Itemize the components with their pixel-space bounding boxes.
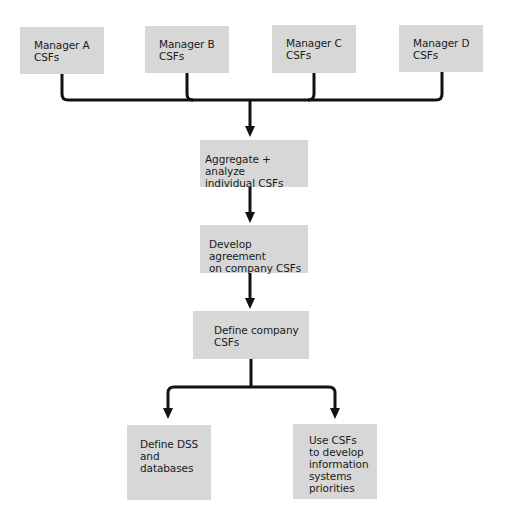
arrowhead-define-dss	[163, 408, 173, 419]
manager-a-subtitle: CSFs	[34, 51, 94, 63]
manager-b-subtitle: CSFs	[159, 50, 219, 62]
agreement-line-2: on company CSFs	[209, 262, 304, 274]
agreement-line-1: Develop agreement	[209, 238, 304, 262]
use-csfs-line-1: Use CSFs	[309, 434, 375, 446]
define-dss-line-1: Define DSS	[140, 438, 207, 450]
manager-d-subtitle: CSFs	[413, 49, 473, 61]
define-company-line-2: CSFs	[214, 336, 305, 348]
drop-manager-c	[308, 73, 314, 100]
branch-bus	[168, 387, 335, 410]
use-csfs-box: Use CSFs to develop information systems …	[293, 424, 377, 499]
define-company-box: Define company CSFs	[193, 311, 309, 359]
use-csfs-line-3: information	[309, 458, 375, 470]
manager-c-title: Manager C	[286, 37, 346, 49]
manager-a-title: Manager A	[34, 39, 94, 51]
bus-manager-a	[62, 72, 442, 100]
manager-d-box: Manager D CSFs	[399, 25, 483, 72]
manager-c-subtitle: CSFs	[286, 49, 346, 61]
aggregate-box: Aggregate + analyze individual CSFs	[200, 140, 308, 187]
agreement-box: Develop agreement on company CSFs	[200, 225, 308, 273]
arrowhead-aggregate	[245, 126, 255, 137]
define-dss-line-3: databases	[140, 462, 207, 474]
manager-d-title: Manager D	[413, 37, 473, 49]
manager-b-box: Manager B CSFs	[145, 26, 229, 73]
define-dss-line-2: and	[140, 450, 207, 462]
manager-b-title: Manager B	[159, 38, 219, 50]
define-dss-box: Define DSS and databases	[127, 425, 211, 500]
use-csfs-line-5: priorities	[309, 482, 375, 494]
arrowhead-agreement	[245, 212, 255, 223]
use-csfs-line-2: to develop	[309, 446, 375, 458]
define-company-line-1: Define company	[214, 324, 305, 336]
aggregate-line-1: Aggregate + analyze	[205, 153, 304, 177]
use-csfs-line-4: systems	[309, 470, 375, 482]
manager-a-box: Manager A CSFs	[20, 27, 104, 74]
arrowhead-define-company	[245, 298, 255, 309]
manager-c-box: Manager C CSFs	[272, 25, 356, 73]
arrowhead-use-csfs	[330, 408, 340, 419]
drop-manager-b	[187, 73, 193, 100]
aggregate-line-2: individual CSFs	[205, 177, 304, 189]
